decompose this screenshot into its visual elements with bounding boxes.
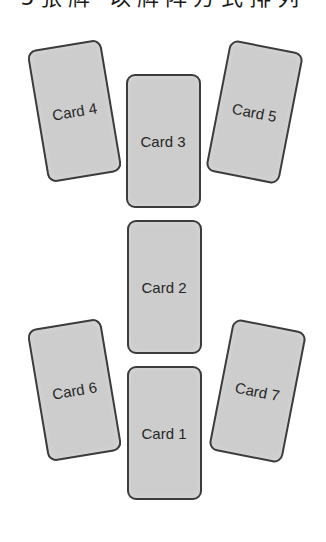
card-label: Card 7 xyxy=(233,378,280,403)
card-label: Card 2 xyxy=(141,279,186,296)
card-label: Card 1 xyxy=(141,425,186,442)
card-label: Card 6 xyxy=(50,378,97,402)
card-7: Card 7 xyxy=(207,318,306,464)
card-1: Card 1 xyxy=(127,366,202,500)
clipped-caption: 5张牌·以牌阵方式排列 xyxy=(0,0,326,10)
card-2: Card 2 xyxy=(127,220,202,354)
card-label: Card 4 xyxy=(50,99,97,123)
card-3: Card 3 xyxy=(126,74,201,208)
card-label: Card 5 xyxy=(230,99,277,124)
card-6: Card 6 xyxy=(26,318,122,463)
card-5: Card 5 xyxy=(204,39,303,185)
card-label: Card 3 xyxy=(140,133,185,150)
card-4: Card 4 xyxy=(26,39,122,184)
